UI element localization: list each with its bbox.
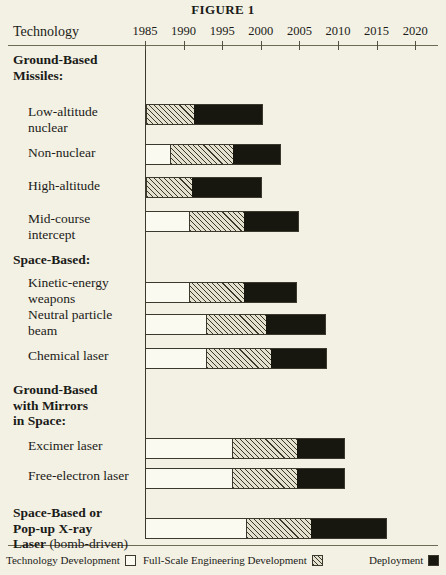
segment-deployment-mid-course-intercept [244,212,297,231]
segment-full-scale-engineering-development-low-altitude-nuclear [146,105,194,124]
legend-label: Full-Scale Engineering Development [143,554,307,566]
segment-full-scale-engineering-development-space-based-or-pop-up-x-ray-laser-bomb-driven [246,519,311,538]
segment-full-scale-engineering-development-high-altitude [146,178,192,197]
segment-deployment-kinetic-energy-weapons [244,283,296,302]
group-heading-space-based-or-pop-up-x-ray-laser-bomb-driven: Space-Based or Pop-up X-ray Laser (bomb-… [13,505,128,552]
bar-neutral-particle-beam [145,314,326,335]
axis-tick-label-1990: 1990 [171,24,196,39]
row-label-high-altitude: High-altitude [28,178,100,194]
segment-full-scale-engineering-development-chemical-laser [206,349,271,368]
segment-technology-development-excimer-laser [146,439,232,458]
segment-full-scale-engineering-development-free-electron-laser [232,469,296,488]
legend-label: Deployment [369,554,423,566]
row-label-kinetic-energy-weapons: Kinetic-energy weapons [28,275,109,306]
axis-tick-1985 [145,41,146,50]
legend-swatch-hatched-box-icon [312,555,323,566]
segment-deployment-space-based-or-pop-up-x-ray-laser-bomb-driven [311,519,385,538]
bar-space-based-or-pop-up-x-ray-laser-bomb-driven [145,518,387,539]
legend-swatch-black-box-icon [428,555,439,566]
axis-tick-label-2005: 2005 [287,24,312,39]
axis-tick-1995 [222,41,223,50]
figure-title: FIGURE 1 [0,2,446,18]
axis-tick-label-2000: 2000 [248,24,273,39]
segment-deployment-chemical-laser [271,349,326,368]
row-label-low-altitude-nuclear: Low-altitude nuclear [28,104,98,135]
bar-high-altitude [145,177,262,198]
bar-mid-course-intercept [145,211,299,232]
segment-deployment-low-altitude-nuclear [194,105,262,124]
row-label-neutral-particle-beam: Neutral particle beam [28,307,112,338]
bar-excimer-laser [145,438,345,459]
segment-technology-development-neutral-particle-beam [146,315,206,334]
axis-tick-2015 [377,41,378,50]
segment-technology-development-chemical-laser [146,349,206,368]
axis-tick-1990 [184,41,185,50]
bar-kinetic-energy-weapons [145,282,297,303]
segment-deployment-neutral-particle-beam [266,315,325,334]
group-heading-space-based: Space-Based: [13,252,90,268]
group-heading-normal: (bomb-driven) [46,536,128,551]
segment-full-scale-engineering-development-non-nuclear [170,145,233,164]
segment-technology-development-mid-course-intercept [146,212,189,231]
segment-technology-development-kinetic-energy-weapons [146,283,189,302]
group-heading-ground-based-with-mirrors-in-space: Ground-Based with Mirrors in Space: [13,382,98,429]
legend-item-technology-development: Technology Development [6,554,136,566]
segment-technology-development-non-nuclear [146,145,170,164]
bar-free-electron-laser [145,468,345,489]
segment-deployment-free-electron-laser [297,469,344,488]
segment-full-scale-engineering-development-neutral-particle-beam [206,315,266,334]
legend-label: Technology Development [6,554,120,566]
segment-deployment-excimer-laser [297,439,344,458]
axis-tick-label-2015: 2015 [364,24,389,39]
axis-tick-2020 [415,41,416,50]
axis-tick-label-1985: 1985 [133,24,158,39]
segment-full-scale-engineering-development-kinetic-energy-weapons [189,283,244,302]
bar-non-nuclear [145,144,281,165]
segment-full-scale-engineering-development-excimer-laser [232,439,297,458]
axis-tick-2005 [299,41,300,50]
segment-technology-development-space-based-or-pop-up-x-ray-laser-bomb-driven [146,519,246,538]
axis-tick-label-1995: 1995 [210,24,235,39]
group-heading-ground-based-missiles: Ground-Based Missiles: [13,52,98,83]
legend-swatch-white-box-icon [125,555,136,566]
x-axis-labels: 19851990199520002005201020152020 [0,24,446,42]
row-label-free-electron-laser: Free-electron laser [28,468,129,484]
legend-item-deployment: Deployment [369,554,439,566]
figure-container: FIGURE 1 Technology 19851990199520002005… [0,0,446,575]
legend-item-full-scale-engineering-development: Full-Scale Engineering Development [143,554,323,566]
bar-chemical-laser [145,348,327,369]
bar-low-altitude-nuclear [145,104,263,125]
row-label-excimer-laser: Excimer laser [28,438,103,454]
segment-deployment-non-nuclear [233,145,279,164]
row-label-non-nuclear: Non-nuclear [28,145,95,161]
segment-full-scale-engineering-development-mid-course-intercept [189,212,245,231]
axis-tick-2000 [261,41,262,50]
chart-legend: Technology DevelopmentFull-Scale Enginee… [0,554,446,574]
segment-deployment-high-altitude [192,178,261,197]
axis-tick-label-2020: 2020 [403,24,428,39]
axis-tick-label-2010: 2010 [326,24,351,39]
row-label-mid-course-intercept: Mid-course intercept [28,211,90,242]
segment-technology-development-free-electron-laser [146,469,232,488]
row-label-chemical-laser: Chemical laser [28,348,109,364]
axis-tick-2010 [338,41,339,50]
